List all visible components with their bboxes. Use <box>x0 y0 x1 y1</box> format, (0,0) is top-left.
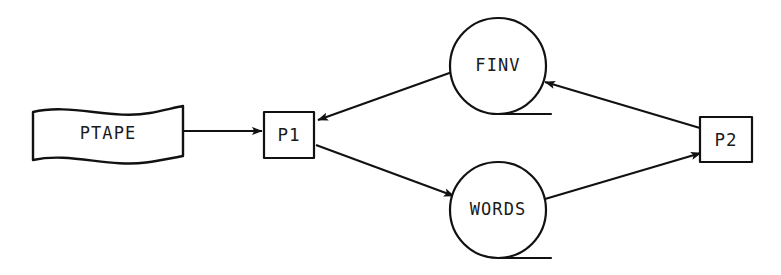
p2-label: P2 <box>714 130 737 150</box>
edge-words-to-p2 <box>545 153 701 199</box>
node-p1[interactable]: P1 <box>264 112 314 158</box>
dataflow-diagram: PTAPE P1 FINV WORDS P2 <box>0 0 781 275</box>
edge-line-words-to-p2 <box>545 153 701 199</box>
diagram-canvas: PTAPE P1 FINV WORDS P2 <box>0 0 781 275</box>
edge-line-p1-to-words <box>316 145 454 196</box>
edge-p1-to-words <box>316 145 454 196</box>
words-label: WORDS <box>470 199 527 219</box>
edge-line-p2-to-finv <box>545 82 700 128</box>
edge-finv-to-p1 <box>318 71 455 120</box>
node-p2[interactable]: P2 <box>700 117 752 162</box>
ptape-label: PTAPE <box>80 123 137 143</box>
node-words[interactable]: WORDS <box>450 162 551 258</box>
node-finv[interactable]: FINV <box>450 18 551 114</box>
finv-label: FINV <box>475 55 520 75</box>
p1-label: P1 <box>277 125 300 145</box>
node-ptape[interactable]: PTAPE <box>33 106 183 164</box>
edge-p2-to-finv <box>545 82 700 128</box>
edge-line-finv-to-p1 <box>318 71 455 120</box>
